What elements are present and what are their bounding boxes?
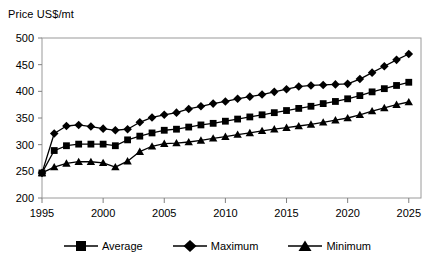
y-tick-label: 250 (16, 165, 34, 177)
data-point-marker (404, 50, 413, 59)
x-tick-label: 2010 (213, 207, 237, 219)
data-point-marker (100, 141, 107, 148)
data-point-marker (185, 124, 192, 131)
data-point-marker (282, 85, 291, 94)
chart-figure: Price US$/mt 200250300350400450500 19952… (0, 0, 435, 262)
data-point-marker (63, 142, 70, 149)
plot-area-container: 200250300350400450500 199520002005201020… (0, 0, 435, 262)
data-point-marker (221, 97, 230, 106)
data-point-marker (332, 98, 339, 105)
data-point-marker (74, 121, 83, 130)
data-point-marker (210, 120, 217, 127)
diamond-marker-icon (173, 240, 207, 252)
data-point-marker (380, 62, 389, 71)
data-point-marker (112, 142, 119, 149)
data-point-marker (405, 98, 413, 105)
data-point-marker (246, 92, 255, 101)
y-axis-ticks: 200250300350400450500 (16, 32, 42, 204)
data-point-marker (320, 100, 327, 107)
data-point-marker (234, 116, 241, 123)
y-tick-label: 350 (16, 112, 34, 124)
data-point-marker (295, 105, 302, 112)
data-point-marker (184, 105, 193, 114)
data-point-marker (161, 127, 168, 134)
x-tick-label: 2025 (397, 207, 421, 219)
data-series-group (38, 50, 413, 178)
data-point-marker (111, 126, 120, 135)
y-tick-label: 200 (16, 192, 34, 204)
y-tick-label: 300 (16, 139, 34, 151)
data-point-marker (50, 129, 59, 138)
data-point-marker (356, 75, 365, 84)
data-point-marker (87, 122, 96, 131)
series-minimum (38, 98, 413, 176)
x-tick-label: 2005 (152, 207, 176, 219)
data-point-marker (270, 88, 279, 97)
data-point-marker (381, 85, 388, 92)
data-point-marker (344, 95, 351, 102)
x-tick-label: 2020 (335, 207, 359, 219)
legend-label-minimum: Minimum (326, 240, 371, 252)
chart-legend: Average Maximum Minimum (0, 236, 435, 256)
x-axis-ticks: 1995200020052010201520202025 (30, 198, 421, 219)
y-tick-label: 400 (16, 85, 34, 97)
data-point-marker (136, 133, 143, 140)
data-point-marker (62, 122, 71, 131)
legend-item-average[interactable]: Average (64, 240, 143, 252)
data-point-marker (197, 102, 206, 111)
data-point-marker (246, 114, 253, 121)
data-point-marker (259, 111, 266, 118)
data-point-marker (307, 81, 316, 90)
legend-label-maximum: Maximum (211, 240, 259, 252)
data-point-marker (343, 80, 352, 89)
data-point-marker (123, 125, 132, 134)
data-point-marker (136, 118, 145, 127)
plot-border (42, 38, 421, 198)
data-point-marker (75, 141, 82, 148)
data-point-marker (271, 109, 278, 116)
data-point-marker (319, 81, 328, 90)
y-tick-label: 500 (16, 32, 34, 44)
chart-svg: 200250300350400450500 199520002005201020… (0, 0, 435, 262)
square-marker-icon (64, 240, 98, 252)
data-point-marker (136, 148, 144, 155)
data-point-marker (149, 130, 156, 137)
data-point-marker (124, 136, 131, 143)
data-point-marker (233, 95, 242, 104)
data-point-marker (283, 107, 290, 114)
data-point-marker (88, 141, 95, 148)
data-point-marker (222, 118, 229, 125)
data-point-marker (198, 122, 205, 129)
data-point-marker (393, 82, 400, 89)
data-point-marker (308, 103, 315, 110)
data-point-marker (172, 108, 181, 117)
data-point-marker (209, 99, 218, 108)
data-point-marker (99, 124, 108, 133)
data-point-marker (369, 88, 376, 95)
legend-item-maximum[interactable]: Maximum (173, 240, 259, 252)
data-point-marker (294, 82, 303, 91)
data-point-marker (331, 80, 340, 89)
data-point-marker (160, 111, 169, 120)
triangle-marker-icon (288, 240, 322, 252)
legend-item-minimum[interactable]: Minimum (288, 240, 371, 252)
x-tick-label: 1995 (30, 207, 54, 219)
data-point-marker (258, 90, 267, 99)
data-point-marker (368, 68, 377, 77)
data-point-marker (392, 56, 401, 65)
x-tick-label: 2015 (274, 207, 298, 219)
y-tick-label: 450 (16, 59, 34, 71)
data-point-marker (405, 79, 412, 86)
data-point-marker (148, 113, 157, 122)
data-point-marker (51, 147, 58, 154)
series-maximum (38, 50, 413, 178)
data-point-marker (356, 92, 363, 99)
legend-label-average: Average (102, 240, 143, 252)
x-tick-label: 2000 (91, 207, 115, 219)
data-point-marker (173, 126, 180, 133)
